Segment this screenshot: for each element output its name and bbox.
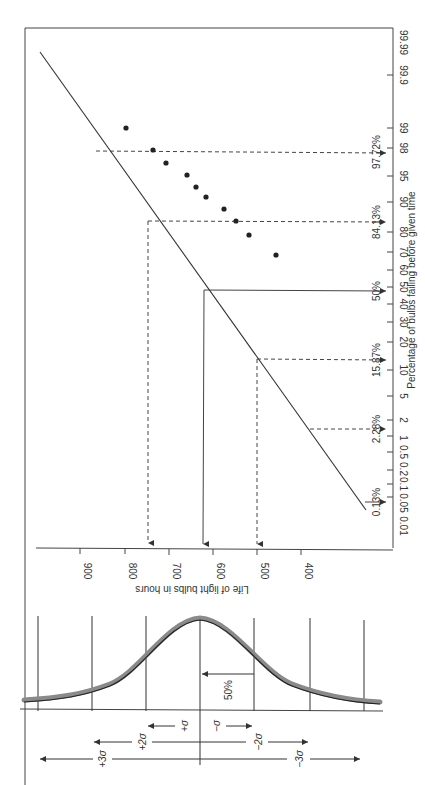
tick-label-99.9: 99.9 [398, 65, 409, 85]
data-point [246, 232, 251, 237]
percentage-axis-ticks [387, 75, 393, 497]
sigma-minus2: −2σ [253, 732, 264, 750]
ref-drop-50 [203, 290, 204, 544]
sigma-minus1: −σ [211, 719, 222, 732]
sigma-plus3: +3σ [97, 749, 108, 767]
data-point [233, 218, 238, 223]
tick-label-0.1: 0.1 [398, 477, 409, 491]
data-point [163, 160, 168, 165]
sigma-labels: +σ −σ +2σ −2σ +3σ −3σ [97, 719, 305, 768]
tick-label-98: 98 [398, 142, 409, 154]
label-97.72: 97.72% [371, 135, 382, 169]
tick-label-0.5: 0.5 [398, 445, 409, 459]
ref-line-97.72 [96, 151, 386, 153]
tick-label-2: 2 [398, 417, 409, 423]
data-point [123, 125, 128, 130]
data-point [221, 206, 226, 211]
tick-label-0.05: 0.05 [398, 493, 409, 513]
sigma-plus1: +σ [179, 719, 190, 732]
tick-label-1: 1 [398, 435, 409, 441]
tick-label-0.01: 0.01 [398, 516, 409, 536]
data-point [203, 194, 208, 199]
bell-curve-band [24, 618, 380, 702]
data-point [273, 252, 278, 257]
tick-label-0.2: 0.2 [398, 462, 409, 476]
label-15.87: 15.87% [371, 343, 382, 377]
label-2.28: 2.28% [371, 415, 382, 443]
percentage-axis-title: Percentage of bulbs failing before given… [406, 191, 417, 389]
tick-label-500: 500 [259, 563, 270, 580]
hours-axis [36, 548, 393, 550]
data-point [150, 147, 155, 152]
tick-label-5: 5 [398, 393, 409, 399]
sigma-minus3: −3σ [294, 749, 305, 767]
normal-curve-panel: 50% +σ −σ +2σ −2σ +3σ −3σ [20, 616, 383, 768]
ref-line-50 [204, 290, 386, 291]
ref-line-15.87 [257, 359, 386, 360]
tick-label-400: 400 [303, 563, 314, 580]
tick-label-95: 95 [398, 170, 409, 182]
hours-axis-tick-labels: 900 800 700 600 500 400 [82, 563, 314, 580]
data-points [123, 125, 278, 257]
sigma-plus2: +2σ [137, 732, 148, 750]
hours-axis-title: Life of light bulbs in hours [135, 584, 248, 595]
tick-label-800: 800 [127, 563, 138, 580]
probability-plot-figure: 900 800 700 600 500 400 Life of light bu… [0, 0, 425, 785]
curve-baseline [20, 709, 383, 711]
tick-label-700: 700 [171, 563, 182, 580]
tick-label-900: 900 [82, 563, 93, 580]
probability-plot: 900 800 700 600 500 400 Life of light bu… [25, 28, 417, 785]
data-point [184, 172, 189, 177]
reference-lines [96, 151, 386, 544]
label-50: 50% [371, 281, 382, 301]
tick-label-99.99: 99.99 [398, 30, 409, 55]
fifty-percent-label: 50% [223, 680, 234, 700]
data-point [193, 184, 198, 189]
label-0.13: 0.13% [371, 488, 382, 516]
label-84.13: 84.13% [371, 205, 382, 239]
tick-label-600: 600 [215, 563, 226, 580]
reference-labels: 97.72% 84.13% 50% 15.87% 2.28% 0.13% [371, 135, 382, 516]
ref-line-84.13 [148, 221, 386, 222]
tick-label-99: 99 [398, 122, 409, 134]
